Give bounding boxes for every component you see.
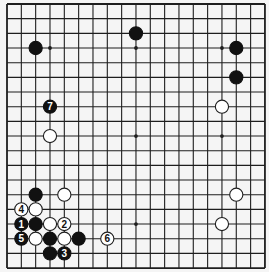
black-stone-disc [43, 232, 56, 245]
black-stone-disc [129, 27, 142, 40]
white-stone [43, 217, 56, 230]
move-number-label: 2 [62, 219, 68, 230]
star-point [48, 46, 52, 50]
white-stone [29, 203, 42, 216]
black-stone-move-3: 3 [58, 247, 71, 260]
black-stone [230, 71, 243, 84]
black-stone-disc [29, 217, 42, 230]
white-stone-move-6: 6 [101, 232, 114, 245]
star-point [134, 134, 138, 138]
move-number-label: 6 [105, 233, 111, 244]
star-point [220, 134, 224, 138]
black-stone [43, 232, 56, 245]
black-stone-disc [230, 41, 243, 54]
move-number-label: 5 [19, 233, 25, 244]
black-stone-disc [43, 247, 56, 260]
black-stone-move-5: 5 [15, 232, 28, 245]
move-number-label: 1 [19, 219, 25, 230]
move-number-label: 3 [62, 248, 68, 259]
white-stone [29, 232, 42, 245]
white-stone [43, 129, 56, 142]
move-number-label: 7 [47, 101, 53, 112]
white-stone [58, 188, 71, 201]
star-point [134, 222, 138, 226]
white-stone-disc [29, 203, 42, 216]
white-stone-disc [230, 188, 243, 201]
black-stone [29, 188, 42, 201]
black-stone [129, 27, 142, 40]
black-stone-disc [72, 232, 85, 245]
white-stone-disc [29, 232, 42, 245]
star-point [134, 46, 138, 50]
black-stone [43, 247, 56, 260]
black-stone-move-7: 7 [43, 100, 56, 113]
black-stone-disc [230, 71, 243, 84]
black-stone [29, 217, 42, 230]
black-stone [29, 41, 42, 54]
white-stone [58, 232, 71, 245]
black-stone [72, 232, 85, 245]
white-stone [215, 217, 228, 230]
white-stone-disc [215, 217, 228, 230]
white-stone [215, 100, 228, 113]
go-board-diagram: 7412563 [0, 0, 269, 272]
white-stone-disc [43, 217, 56, 230]
white-stone-move-4: 4 [15, 203, 28, 216]
black-stone-move-1: 1 [15, 217, 28, 230]
go-board: 7412563 [0, 0, 269, 272]
move-number-label: 4 [19, 204, 25, 215]
black-stone-disc [29, 188, 42, 201]
white-stone-disc [58, 188, 71, 201]
white-stone-move-2: 2 [58, 217, 71, 230]
white-stone-disc [58, 232, 71, 245]
star-point [220, 46, 224, 50]
black-stone-disc [29, 41, 42, 54]
black-stone [230, 41, 243, 54]
white-stone [230, 188, 243, 201]
white-stone-disc [43, 129, 56, 142]
white-stone-disc [215, 100, 228, 113]
